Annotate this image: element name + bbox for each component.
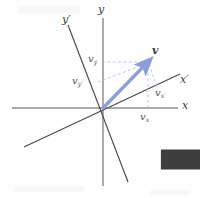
y-axis-label: y: [98, 4, 104, 15]
vy-prime-component-label: vy′: [72, 76, 83, 87]
vx-component-label: vx: [140, 112, 149, 123]
y-prime-axis-line: [68, 25, 128, 182]
y-prime-axis-label-prime: ′: [68, 13, 71, 26]
vx-component-label-subscript: x: [146, 116, 150, 123]
vector-v-label: v: [152, 45, 158, 56]
vx-prime-component-label-subscript: x′: [161, 92, 166, 99]
y-prime-axis-label: y′: [62, 14, 71, 25]
vy-component-label-subscript: y: [94, 58, 98, 65]
y-axis-label-text: y: [98, 3, 104, 16]
vx-prime-component-label: vx′: [155, 88, 166, 99]
vector-components-figure: y′ y x′ x v vy vy′ vx′ vx: [0, 0, 200, 198]
vy-prime-component-label-subscript: y′: [78, 80, 83, 87]
vy-component-label: vy: [88, 54, 97, 65]
vector-overbar-arrow-icon: [152, 45, 200, 198]
vector-v-arrow: [103, 65, 146, 109]
